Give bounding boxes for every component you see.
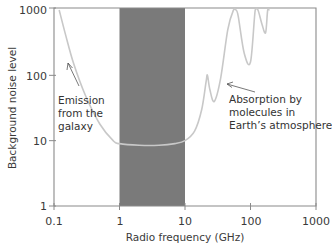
galaxy-note-line3: galaxy xyxy=(58,120,93,132)
shaded-band xyxy=(120,8,186,206)
y-tick-10: 10 xyxy=(33,135,47,148)
y-tick-1000: 1000 xyxy=(19,4,47,17)
x-axis-title: Radio frequency (GHz) xyxy=(126,231,245,243)
x-tick-labels: 0.1 1 10 100 1000 xyxy=(45,215,330,228)
y-axis-title: Background noise level xyxy=(6,47,18,169)
x-tick-10: 10 xyxy=(178,215,192,228)
y-tick-1: 1 xyxy=(40,200,47,213)
galaxy-note-line1: Emission xyxy=(58,94,105,106)
atmosphere-note-line2: molecules in xyxy=(229,106,295,118)
y-tick-100: 100 xyxy=(26,70,47,83)
x-tick-1: 1 xyxy=(117,215,124,228)
y-tick-labels: 1 10 100 1000 xyxy=(19,4,47,213)
x-tick-0.1: 0.1 xyxy=(45,215,63,228)
x-tick-100: 100 xyxy=(241,215,262,228)
galaxy-note-line2: from the xyxy=(58,107,103,119)
radio-window-band xyxy=(120,8,186,206)
atmosphere-arrow-line xyxy=(227,84,255,92)
atmosphere-note-line3: Earth’s atmosphere xyxy=(229,119,332,131)
atmosphere-note-line1: Absorption by xyxy=(229,93,302,105)
x-tick-1000: 1000 xyxy=(302,215,330,228)
noise-chart: 0.1 1 10 100 1000 1 10 100 1000 Radio fr… xyxy=(0,0,332,245)
